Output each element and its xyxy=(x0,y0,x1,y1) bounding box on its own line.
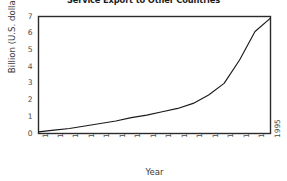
plot-area xyxy=(0,0,287,181)
chart-figure: Service Export to Other Countries Billio… xyxy=(0,0,287,181)
plot-background xyxy=(39,17,271,134)
